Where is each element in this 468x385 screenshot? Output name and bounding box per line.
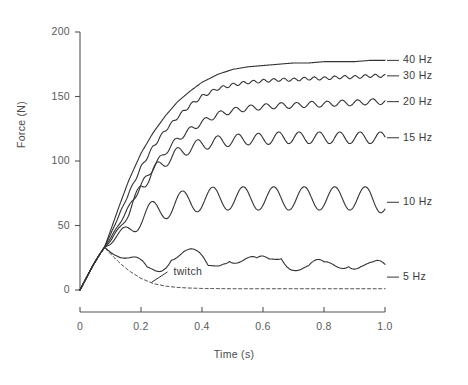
series-label-20-hz: 20 Hz (403, 95, 432, 107)
x-tick-label: 0.4 (182, 320, 222, 332)
y-tick-label: 200 (34, 25, 70, 37)
series-layer (80, 60, 385, 290)
x-tick-label: 0.8 (304, 320, 344, 332)
series-line-twitch (80, 248, 385, 290)
chart-figure: Force (N) Time (s) 05010015020000.20.40.… (0, 0, 468, 385)
y-axis-label: Force (N) (15, 101, 27, 148)
series-label-30-hz: 30 Hz (403, 69, 432, 81)
x-tick-label: 1.0 (365, 320, 405, 332)
y-tick-label: 50 (34, 219, 70, 231)
y-tick-label: 0 (34, 283, 70, 295)
series-label-15-hz: 15 Hz (403, 131, 432, 143)
series-line-20-hz (80, 99, 385, 290)
axes-layer (75, 32, 385, 312)
x-tick-label: 0 (60, 320, 100, 332)
series-line-40-hz (80, 60, 385, 290)
twitch-leader-line (152, 272, 168, 282)
x-tick-label: 0.6 (243, 320, 283, 332)
x-tick-label: 0.2 (121, 320, 161, 332)
series-line-10-hz (80, 187, 385, 290)
series-line-5-hz (80, 248, 385, 290)
series-label-40-hz: 40 Hz (403, 53, 432, 65)
series-label-10-hz: 10 Hz (403, 195, 432, 207)
y-tick-label: 100 (34, 154, 70, 166)
twitch-annotation-label: twitch (174, 265, 203, 277)
series-label-5-hz: 5 Hz (403, 270, 426, 282)
y-tick-label: 150 (34, 90, 70, 102)
x-axis-label: Time (s) (0, 348, 468, 360)
